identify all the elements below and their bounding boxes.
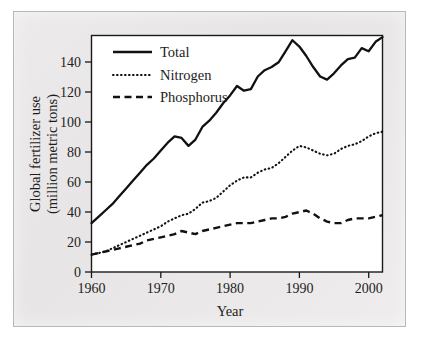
figure: 0 20 40 60 80 100 120 140 1960 1970 <box>0 0 422 352</box>
y-axis-labels: 0 20 40 60 80 100 120 140 <box>60 55 81 280</box>
legend-label-phosphorus: Phosphorus <box>160 89 228 105</box>
y-axis-title-line2: (million metric tons) <box>44 94 61 214</box>
y-tick-label: 100 <box>60 115 81 130</box>
y-axis-title-line1: Global fertilizer use <box>27 96 43 212</box>
x-tick-label: 1990 <box>285 281 313 296</box>
x-axis-ticks <box>92 272 369 278</box>
chart-svg: 0 20 40 60 80 100 120 140 1960 1970 <box>0 0 422 352</box>
x-axis-labels: 1960 1970 1980 1990 2000 <box>78 281 383 296</box>
y-tick-label: 80 <box>67 145 81 160</box>
y-tick-label: 0 <box>74 265 81 280</box>
plot-frame <box>92 36 383 273</box>
legend-label-nitrogen: Nitrogen <box>160 67 212 83</box>
x-tick-label: 2000 <box>355 281 383 296</box>
y-tick-label: 20 <box>67 235 81 250</box>
x-tick-label: 1960 <box>78 281 106 296</box>
legend-label-total: Total <box>160 44 190 60</box>
x-axis-title: Year <box>217 303 244 319</box>
y-tick-label: 140 <box>60 55 81 70</box>
x-tick-label: 1980 <box>216 281 244 296</box>
y-axis-ticks <box>85 62 92 272</box>
chart-plot-area: 0 20 40 60 80 100 120 140 1960 1970 <box>0 0 422 352</box>
x-tick-label: 1970 <box>147 281 175 296</box>
y-tick-label: 40 <box>67 205 81 220</box>
y-tick-label: 120 <box>60 85 81 100</box>
y-tick-label: 60 <box>67 175 81 190</box>
